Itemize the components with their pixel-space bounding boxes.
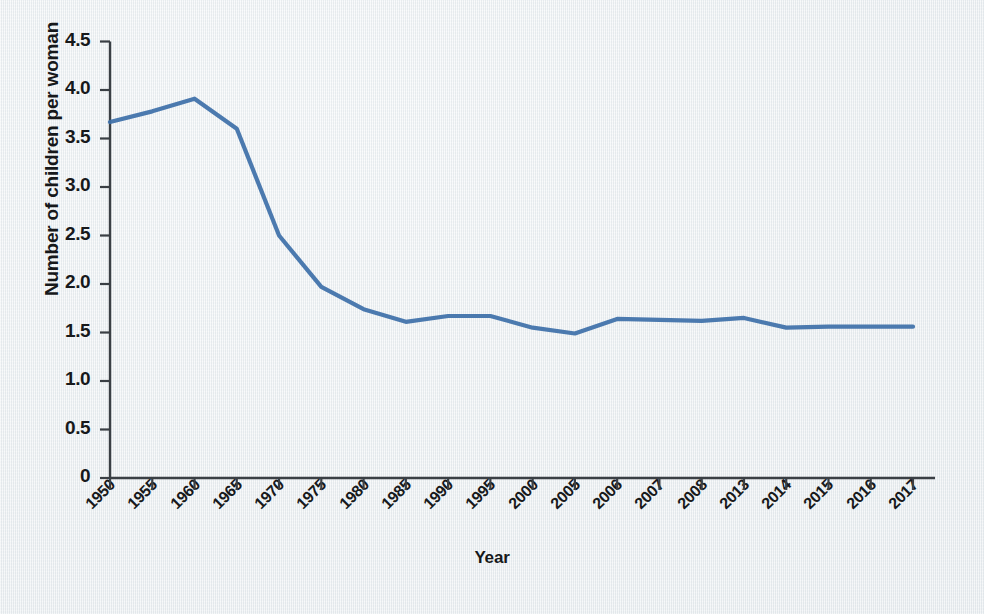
plot-area bbox=[0, 0, 984, 614]
series-line-children-per-woman bbox=[110, 99, 913, 334]
axes bbox=[100, 42, 935, 491]
fertility-rate-line-chart: Number of children per woman Year 4.54.0… bbox=[0, 0, 984, 614]
data-series bbox=[110, 99, 913, 334]
